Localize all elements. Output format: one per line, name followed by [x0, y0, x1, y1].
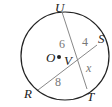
- label-U: U: [55, 0, 66, 15]
- circle-diagram: U S R T O V 6 4 8 x: [0, 0, 112, 107]
- label-V: V: [64, 53, 74, 68]
- value-VS: 4: [82, 35, 88, 49]
- label-T: T: [87, 89, 95, 104]
- label-R: R: [23, 86, 32, 101]
- value-UV: 6: [59, 37, 65, 51]
- label-S: S: [98, 31, 105, 46]
- center-point: [57, 55, 61, 59]
- chord-UT: [62, 12, 87, 89]
- value-RV: 8: [55, 75, 61, 89]
- value-VT: x: [85, 61, 92, 75]
- label-O: O: [46, 50, 56, 65]
